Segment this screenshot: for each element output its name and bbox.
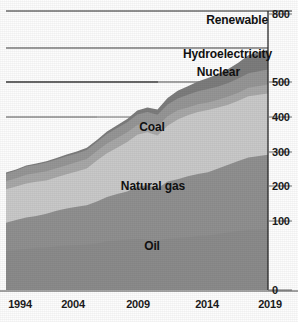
x-tick-label-1994: 1994 bbox=[8, 299, 32, 310]
series-label-nuclear: Nuclear bbox=[197, 66, 240, 78]
series-label-renewable: Renewable bbox=[206, 14, 268, 26]
x-tick-label-2009: 2009 bbox=[126, 299, 150, 310]
y-tick-label-800: 800 bbox=[272, 9, 290, 20]
gridlines-overlay bbox=[6, 82, 158, 117]
y-tick-label-300: 300 bbox=[272, 147, 290, 158]
x-tick-label-2014: 2014 bbox=[195, 299, 219, 310]
y-tick-label-400: 400 bbox=[272, 112, 290, 123]
x-tick-label-2004: 2004 bbox=[61, 299, 85, 310]
series-label-natural-gas: Natural gas bbox=[121, 180, 185, 192]
x-tick-label-2019: 2019 bbox=[258, 299, 282, 310]
stacked-area-chart: 800 500 400 300 200 100 0 1994 2004 2009… bbox=[0, 0, 298, 322]
series-label-oil: Oil bbox=[144, 240, 160, 252]
y-tick-label-200: 200 bbox=[272, 181, 290, 192]
y-tick-label-0: 0 bbox=[272, 285, 278, 296]
y-tick-label-100: 100 bbox=[272, 216, 290, 227]
y-tick-label-500: 500 bbox=[272, 77, 290, 88]
series-label-coal: Coal bbox=[139, 121, 165, 133]
series-label-hydroelectricity: Hydroelectricity bbox=[183, 48, 272, 60]
series-areas bbox=[6, 50, 268, 290]
